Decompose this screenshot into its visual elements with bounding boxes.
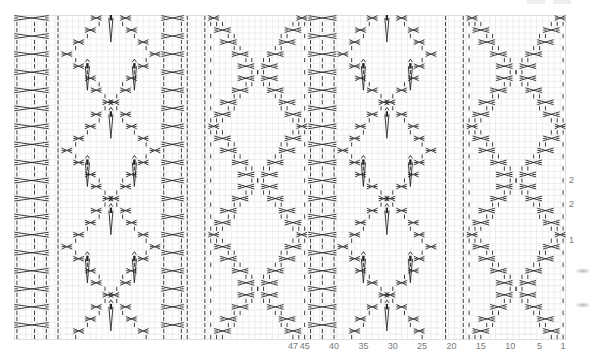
cable-cross-symbol <box>496 292 512 297</box>
cable-cross-symbol <box>308 178 336 183</box>
arrow-symbol <box>361 59 365 62</box>
arrow-symbol <box>408 252 412 255</box>
marker-symbol <box>386 111 388 116</box>
cable-cross-symbol <box>220 317 236 322</box>
cable-cross-symbol <box>232 160 248 165</box>
cable-cross-symbol <box>279 317 295 322</box>
arrow-symbol <box>85 252 89 255</box>
row-label: 2 <box>569 199 574 209</box>
cable-cross-symbol <box>473 28 489 33</box>
cable-cross-symbol <box>520 292 536 297</box>
row-label: 1 <box>569 235 574 245</box>
marker-symbol <box>86 63 88 68</box>
cable-cross-symbol <box>308 304 336 309</box>
cable-cross-symbol <box>308 196 336 201</box>
marker-symbol <box>409 256 411 261</box>
arrow-symbol <box>385 204 389 207</box>
cable-cross-symbol <box>238 64 254 69</box>
cable-cross-symbol <box>267 160 283 165</box>
cable-cross-symbol <box>238 184 254 189</box>
cable-cross-symbol <box>261 172 277 177</box>
cable-cross-symbol <box>525 52 541 57</box>
arrow-symbol <box>85 155 89 158</box>
row-label: 2 <box>569 175 574 185</box>
cable-cross-symbol <box>490 304 506 309</box>
arrow-symbol <box>408 155 412 158</box>
cable-cross-symbol <box>520 280 536 285</box>
cable-cross-symbol <box>261 292 277 297</box>
decrease-wedge-symbol <box>109 114 113 138</box>
cable-cross-symbol <box>232 52 248 57</box>
column-label: 40 <box>329 341 339 351</box>
cable-cross-symbol <box>543 112 559 117</box>
cable-cross-symbol <box>308 250 336 255</box>
cable-cross-symbol <box>537 40 553 45</box>
decrease-wedge-symbol <box>385 18 389 42</box>
cable-cross-symbol <box>285 220 301 225</box>
cable-cross-symbol <box>479 40 495 45</box>
cable-cross-symbol <box>537 100 553 105</box>
column-label: 10 <box>505 341 515 351</box>
top-right-tab <box>553 0 571 4</box>
arrow-symbol <box>408 59 412 62</box>
marker-symbol <box>86 256 88 261</box>
cable-cross-symbol <box>267 304 283 309</box>
arrow-symbol <box>85 59 89 62</box>
chart-grid <box>14 15 566 340</box>
cable-cross-symbol <box>285 329 301 334</box>
cable-cross-symbol <box>267 196 283 201</box>
cable-cross-symbol <box>279 256 295 261</box>
cable-cross-symbol <box>520 172 536 177</box>
cable-cross-symbol <box>308 214 336 219</box>
column-label: 45 <box>300 341 310 351</box>
cable-cross-symbol <box>308 232 336 237</box>
cable-cross-symbol <box>238 76 254 81</box>
cable-cross-symbol <box>308 88 336 93</box>
knitting-chart <box>14 15 566 340</box>
cable-cross-symbol <box>214 244 230 249</box>
cable-cross-symbol <box>285 136 301 141</box>
cable-cross-symbol <box>214 112 230 117</box>
marker-symbol <box>409 159 411 164</box>
cable-cross-symbol <box>479 256 495 261</box>
marker-symbol <box>386 15 388 20</box>
cable-cross-symbol <box>490 52 506 57</box>
cable-cross-symbol <box>543 28 559 33</box>
arrow-symbol <box>361 155 365 158</box>
decrease-wedge-symbol <box>109 18 113 42</box>
marker-symbol <box>362 159 364 164</box>
marker-symbol <box>110 15 112 20</box>
column-label: 1 <box>561 341 566 351</box>
column-label: 47 <box>288 341 298 351</box>
arrow-symbol <box>109 300 113 303</box>
decrease-wedge-symbol <box>109 307 113 331</box>
cable-cross-symbol <box>308 70 336 75</box>
cable-cross-symbol <box>279 100 295 105</box>
cable-cross-symbol <box>473 220 489 225</box>
cable-cross-symbol <box>214 28 230 33</box>
cable-cross-symbol <box>525 88 541 93</box>
decrease-wedge-symbol <box>385 211 389 235</box>
cable-cross-symbol <box>520 64 536 69</box>
cable-cross-symbol <box>496 184 512 189</box>
marker-symbol <box>362 63 364 68</box>
cable-cross-symbol <box>261 280 277 285</box>
cable-cross-symbol <box>285 244 301 249</box>
cable-cross-symbol <box>525 160 541 165</box>
column-label: 20 <box>446 341 456 351</box>
cable-cross-symbol <box>261 64 277 69</box>
cable-cross-symbol <box>537 256 553 261</box>
cable-cross-symbol <box>285 28 301 33</box>
cable-cross-symbol <box>490 268 506 273</box>
decrease-wedge-symbol <box>109 211 113 235</box>
cable-cross-symbol <box>238 172 254 177</box>
cable-cross-symbol <box>238 280 254 285</box>
marker-symbol <box>133 256 135 261</box>
cable-cross-symbol <box>285 112 301 117</box>
cable-cross-symbol <box>543 220 559 225</box>
cable-cross-symbol <box>261 76 277 81</box>
marker-symbol <box>110 304 112 309</box>
arrow-symbol <box>109 107 113 110</box>
marker-symbol <box>409 63 411 68</box>
cable-cross-symbol <box>220 100 236 105</box>
